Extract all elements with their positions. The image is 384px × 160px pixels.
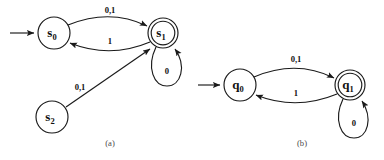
caption-b: (b) — [297, 138, 307, 148]
state-node-q0[interactable]: q0 — [224, 69, 256, 101]
transition-label-q0-q1: 0,1 — [291, 54, 302, 64]
transition-s0-s1 — [68, 17, 147, 26]
diagram-b: 0,1 1 0 q0 q1 — [198, 54, 368, 148]
state-node-q1[interactable]: q1 — [335, 70, 365, 100]
transition-label-s1-s0: 1 — [108, 36, 112, 46]
state-diagram-figure: 0,1 1 0 0,1 s0 — [0, 0, 384, 160]
transition-label-q1-q0: 1 — [294, 88, 298, 98]
transition-label-s2-s1: 0,1 — [75, 82, 86, 92]
caption-a: (a) — [105, 138, 115, 148]
transition-label-s1-s1: 0 — [165, 66, 169, 76]
transition-q0-q1 — [254, 68, 334, 78]
diagram-a: 0,1 1 0 0,1 s0 — [10, 5, 181, 148]
state-node-s2[interactable]: s2 — [36, 101, 68, 133]
state-node-s0[interactable]: s0 — [38, 17, 70, 49]
state-node-s1[interactable]: s1 — [148, 18, 178, 48]
transition-s2-s1 — [66, 49, 150, 107]
transition-label-s0-s1: 0,1 — [105, 5, 116, 15]
transition-label-q1-q1: 0 — [352, 118, 356, 128]
figure-root: 0,1 1 0 0,1 s0 — [0, 0, 384, 160]
